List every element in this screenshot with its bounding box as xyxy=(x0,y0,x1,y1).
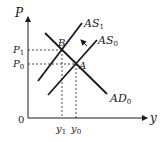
point-b-label: B xyxy=(57,37,65,48)
y-axis-label: P xyxy=(14,6,24,20)
p0-label: P0 xyxy=(12,58,24,71)
as1-label: AS1 xyxy=(83,17,104,31)
as1-curve xyxy=(38,23,82,81)
as-ad-diagram: P y 0 AS1 AS0 AD0 B A P1 P0 y1 y0 xyxy=(0,0,162,142)
origin-label: 0 xyxy=(18,114,24,125)
y1-label: y1 xyxy=(55,123,66,136)
p1-label: P1 xyxy=(12,44,24,57)
ad0-label: AD0 xyxy=(109,92,131,106)
x-axis-label: y xyxy=(149,111,157,125)
point-a-label: A xyxy=(78,60,86,71)
y0-label: y0 xyxy=(70,123,81,136)
as0-label: AS0 xyxy=(97,34,118,48)
as0-curve xyxy=(48,40,97,95)
shift-arrow-icon xyxy=(81,40,87,46)
